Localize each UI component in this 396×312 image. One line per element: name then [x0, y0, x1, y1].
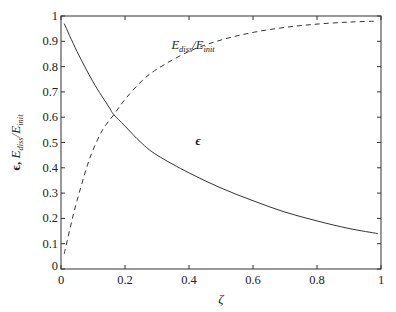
- y-tick-label: 0.3: [42, 186, 58, 200]
- x-tick-label: 0.8: [309, 273, 325, 287]
- y-tick-label: 0.2: [42, 211, 58, 225]
- y-tick-label: 0.8: [42, 60, 58, 74]
- y-tick-label: 1: [52, 9, 58, 23]
- x-axis-label: ζ: [218, 291, 224, 306]
- x-tick-label: 0.4: [181, 273, 197, 287]
- y-tick-label: 0.1: [42, 237, 58, 251]
- x-tick-label: 0.6: [245, 273, 261, 287]
- annotation-ediss-einit: Ediss/Einit: [170, 38, 215, 54]
- data-series: [64, 21, 378, 254]
- series-ediss-einit-line: [64, 21, 378, 254]
- y-tick-label: 0.5: [42, 136, 58, 150]
- y-tick-label: 0.6: [42, 110, 58, 124]
- curve-annotations: Ediss/Einit ϵ: [170, 38, 215, 148]
- x-tick-label: 0.2: [117, 273, 133, 287]
- annotation-epsilon: ϵ: [195, 134, 201, 148]
- y-axis-label: ϵ, Ediss/Einit: [8, 114, 25, 171]
- series-epsilon-line: [64, 24, 378, 234]
- y-tick-label: 0.9: [42, 34, 58, 48]
- plot-border: [61, 16, 381, 269]
- y-tick-label: 0.7: [42, 85, 58, 99]
- x-tick-label: 0: [58, 273, 64, 287]
- plot-frame: [61, 16, 381, 269]
- line-chart: 00.20.40.60.8100.10.20.30.40.50.60.70.80…: [0, 0, 396, 312]
- y-tick-label: 0: [52, 259, 58, 273]
- y-tick-label: 0.4: [42, 161, 58, 175]
- x-tick-label: 1: [378, 273, 384, 287]
